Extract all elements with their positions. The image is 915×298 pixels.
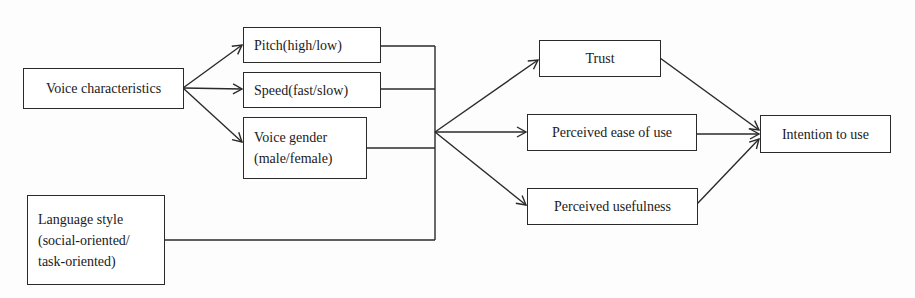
- node-label: Pitch(high/low): [254, 35, 342, 56]
- node-label: Voice characteristics: [46, 78, 161, 99]
- arrow-bus-to-trust: [435, 60, 538, 132]
- node-speed: Speed(fast/slow): [243, 72, 381, 108]
- node-pitch: Pitch(high/low): [243, 27, 381, 63]
- arrow-usefulness-to-intention: [697, 139, 759, 204]
- node-label: Perceived usefulness: [554, 196, 671, 217]
- arrow-voice-to-gender: [183, 88, 242, 142]
- node-label-line2: (social-oriented/: [38, 230, 130, 251]
- arrow-voice-to-speed: [183, 88, 242, 89]
- node-perceived-usefulness: Perceived usefulness: [527, 188, 698, 225]
- research-model-diagram: Voice characteristics Pitch(high/low) Sp…: [0, 0, 915, 298]
- node-label: Trust: [585, 48, 614, 69]
- node-label-line3: task-oriented): [38, 251, 116, 272]
- node-label: Perceived ease of use: [552, 122, 672, 143]
- node-voice-gender: Voice gender (male/female): [243, 117, 367, 179]
- node-trust: Trust: [539, 40, 661, 77]
- node-label: Intention to use: [782, 124, 869, 145]
- node-label-line1: Language style: [38, 209, 123, 230]
- arrow-voice-to-pitch: [183, 45, 242, 88]
- node-perceived-ease-of-use: Perceived ease of use: [527, 114, 697, 151]
- node-label-line1: Voice gender: [254, 127, 327, 148]
- node-label: Speed(fast/slow): [254, 80, 348, 101]
- arrow-bus-to-usefulness: [435, 132, 526, 205]
- node-voice-characteristics: Voice characteristics: [23, 68, 184, 109]
- node-intention-to-use: Intention to use: [760, 115, 891, 153]
- node-language-style: Language style (social-oriented/ task-or…: [27, 195, 165, 285]
- node-label-line2: (male/female): [254, 148, 333, 169]
